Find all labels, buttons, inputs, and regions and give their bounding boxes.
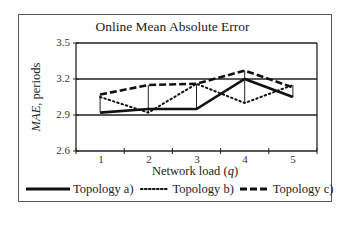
legend-item-topology-b: Topology b) — [140, 182, 234, 197]
axes — [73, 43, 317, 154]
solid-line-icon — [26, 186, 70, 192]
legend-item-topology-c: Topology c) — [240, 182, 334, 197]
drop-lines — [100, 71, 293, 113]
dashed-line-icon — [240, 186, 270, 192]
legend-item-topology-a: Topology a) — [26, 182, 134, 197]
legend-label-a: Topology a) — [73, 182, 134, 197]
legend-label-c: Topology c) — [273, 182, 334, 197]
legend: Topology a) Topology b) Topology c) — [26, 181, 339, 197]
dotted-line-icon — [140, 186, 170, 192]
legend-label-b: Topology b) — [173, 182, 234, 197]
